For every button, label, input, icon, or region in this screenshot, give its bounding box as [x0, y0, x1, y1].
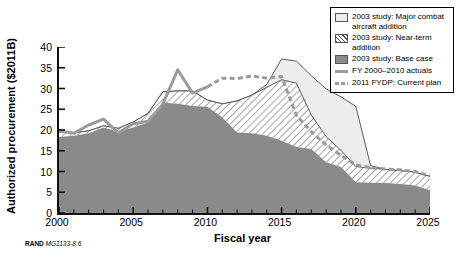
legend-item: FY 2000–2010 actuals: [335, 66, 449, 76]
legend-item-label: 2003 study: Near-term addition: [352, 33, 449, 52]
x-axis-title: Fiscal year: [57, 232, 428, 244]
source-org: RAND: [25, 240, 44, 247]
legend-item-label: 2011 FYDP: Current plan: [352, 78, 449, 88]
x-tick-label: 2020: [334, 216, 374, 228]
x-tick-label: 2015: [260, 216, 300, 228]
dark-fill-swatch: [335, 55, 348, 64]
legend-item: 2003 study: Near-term addition: [335, 33, 449, 52]
y-tick-label: 15: [26, 146, 52, 156]
figure-container: Authorized procurement ($2011B) 05101520…: [0, 0, 460, 261]
legend-item: 2003 study: Base case: [335, 54, 449, 64]
y-axis-title: Authorized procurement ($2011B): [2, 38, 20, 214]
hatched-fill-swatch: [335, 34, 348, 43]
x-tick-label: 2025: [408, 216, 448, 228]
legend-item-label: 2003 study: Base case: [352, 54, 449, 64]
x-tick-label: 2010: [185, 216, 225, 228]
legend-item: 2011 FYDP: Current plan: [335, 78, 449, 88]
dashed-line-swatch: [335, 79, 348, 88]
y-tick-label: 10: [26, 167, 52, 177]
legend-item-label: FY 2000–2010 actuals: [352, 66, 449, 76]
solid-line-swatch: [335, 67, 348, 76]
y-tick-label: 40: [26, 42, 52, 52]
chart-legend: 2003 study: Major combat aircraft additi…: [330, 7, 454, 93]
legend-item-label: 2003 study: Major combat aircraft additi…: [352, 12, 449, 31]
y-axis-title-text: Authorized procurement ($2011B): [5, 38, 17, 214]
light-fill-swatch: [335, 13, 348, 22]
source-note: RAND MG1133-8.6: [25, 240, 81, 247]
y-tick-label: 35: [26, 63, 52, 73]
x-tick-label: 2005: [111, 216, 151, 228]
y-tick-label: 30: [26, 84, 52, 94]
y-tick-label: 5: [26, 187, 52, 197]
y-tick-label: 25: [26, 104, 52, 114]
y-tick-label: 20: [26, 125, 52, 135]
x-tick-label: 2000: [37, 216, 77, 228]
legend-item: 2003 study: Major combat aircraft additi…: [335, 12, 449, 31]
source-figure-id: MG1133-8.6: [46, 240, 82, 247]
